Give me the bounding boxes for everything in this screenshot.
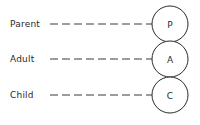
diagram-canvas: Parent Adult Child P A C bbox=[0, 0, 200, 125]
circle-letter-adult: A bbox=[153, 54, 188, 64]
row-label-child: Child bbox=[10, 90, 34, 100]
ego-state-circle-child: C bbox=[152, 77, 189, 114]
circle-letter-parent: P bbox=[153, 19, 188, 29]
row-label-adult: Adult bbox=[10, 54, 34, 64]
row-label-parent: Parent bbox=[10, 19, 40, 29]
circle-letter-child: C bbox=[153, 90, 188, 100]
ego-state-circle-adult: A bbox=[152, 41, 189, 78]
ego-state-circle-parent: P bbox=[152, 6, 189, 43]
